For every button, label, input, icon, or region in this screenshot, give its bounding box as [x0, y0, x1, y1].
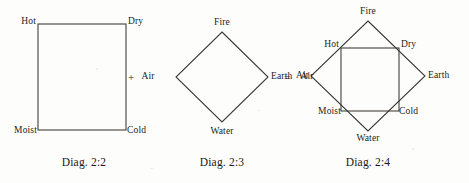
diag-2-3-label-water: Water: [210, 127, 233, 137]
diag-2-4-label-earth: Earth: [428, 71, 449, 81]
figure-page: Hot Dry Moist Cold + Air Fire Earth Wate…: [0, 0, 469, 183]
diag-2-3-diamond: [176, 32, 268, 122]
operator-label-air-left: Air: [141, 72, 154, 82]
plus-operator: +: [128, 71, 134, 83]
diag-2-2-label-cold: Cold: [127, 126, 146, 136]
diag-2-4-label-cold: Cold: [399, 107, 418, 117]
diag-2-2-label-moist: Moist: [14, 126, 37, 136]
caption-diag-2-3: Diag. 2:3: [200, 156, 245, 168]
diag-2-2-label-dry: Dry: [128, 17, 143, 27]
caption-diag-2-4: Diag. 2:4: [346, 156, 391, 168]
caption-diag-2-2: Diag. 2:2: [62, 156, 107, 168]
diag-2-4-label-fire: Fire: [360, 7, 376, 17]
diag-2-2-label-hot: Hot: [21, 17, 36, 27]
equals-operator: =: [284, 71, 290, 83]
diag-2-4-label-air: Air: [296, 71, 309, 81]
diag-2-4-label-dry: Dry: [401, 40, 416, 50]
diag-2-4-inner-square: [341, 48, 399, 111]
diag-2-4-label-hot: Hot: [324, 40, 339, 50]
diag-2-2-square: [38, 24, 126, 130]
diag-2-4-label-moist: Moist: [318, 107, 341, 117]
diag-2-3-label-fire: Fire: [214, 18, 230, 28]
diag-2-4-label-water: Water: [356, 134, 379, 144]
